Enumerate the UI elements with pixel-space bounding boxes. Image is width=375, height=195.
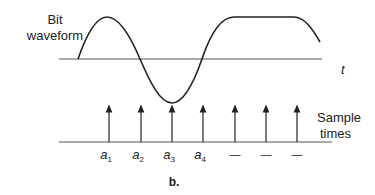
sample-label-a2: a2 — [132, 147, 144, 164]
sample-label-line2: times — [320, 126, 352, 141]
sample-arrows — [107, 106, 300, 142]
sample-label-blank: — — [261, 148, 272, 160]
sample-arrow — [264, 106, 269, 142]
sample-arrow — [107, 106, 112, 142]
sample-arrow — [201, 106, 206, 142]
sample-label-a1: a1 — [100, 147, 112, 164]
waveform-curve — [78, 17, 320, 103]
sample-arrow — [233, 106, 238, 142]
sample-label-a4: a4 — [194, 147, 206, 164]
sample-arrow — [139, 106, 144, 142]
bit-waveform-diagram: Bit waveform t a1 a2 a3 a4 — — — Sample … — [0, 0, 375, 195]
waveform-label-line2: waveform — [26, 28, 83, 43]
waveform-label-line1: Bit — [47, 12, 63, 27]
figure-caption: b. — [169, 175, 180, 189]
sample-arrow — [295, 106, 300, 142]
sample-arrow — [170, 106, 175, 142]
sample-label-a3: a3 — [163, 147, 175, 164]
time-axis-label: t — [341, 62, 346, 77]
sample-label-blank: — — [230, 148, 241, 160]
sample-labels: a1 a2 a3 a4 — — — — [100, 147, 302, 164]
sample-label-blank: — — [292, 148, 303, 160]
sample-label-line1: Sample — [317, 110, 361, 125]
